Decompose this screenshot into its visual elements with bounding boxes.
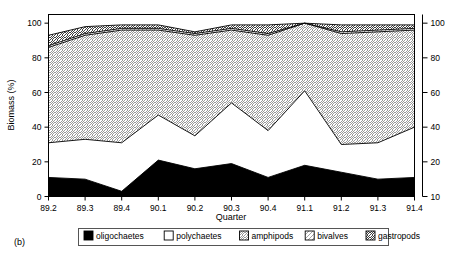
x-tick-label: 90.4 <box>260 203 277 213</box>
legend-swatch-gastropods <box>366 231 375 240</box>
y-right-tick-label: 60 <box>431 88 441 98</box>
stacked-area-chart: 020406080100 1020406080100 89.289.389.49… <box>0 0 460 254</box>
plot-series-group <box>49 23 415 196</box>
y-axis-right-ticks: 1020406080100 <box>423 15 445 202</box>
y-left-tick-label: 20 <box>32 157 42 167</box>
y-left-tick-label: 80 <box>32 53 42 63</box>
y-right-tick-label: 40 <box>431 122 441 132</box>
legend-label-oligochaetes: oligochaetes <box>96 231 144 241</box>
y-axis-label: Biomass (%) <box>6 79 16 130</box>
x-tick-label: 91.2 <box>333 203 350 213</box>
legend-swatch-amphipods <box>240 231 249 240</box>
legend-items: oligochaetespolychaetesamphipodsbivalves… <box>84 231 420 241</box>
x-tick-label: 90.2 <box>187 203 204 213</box>
x-tick-label: 90.1 <box>150 203 167 213</box>
x-tick-label: 90.3 <box>223 203 240 213</box>
y-right-tick-label: 20 <box>431 157 441 167</box>
y-left-tick-label: 60 <box>32 88 42 98</box>
y-axis-left-ticks: 020406080100 <box>27 18 48 201</box>
x-tick-label: 89.4 <box>113 203 130 213</box>
y-right-tick-label: 100 <box>431 18 445 28</box>
legend-swatch-polychaetes <box>164 231 173 240</box>
x-tick-label: 91.1 <box>296 203 313 213</box>
x-tick-label: 89.3 <box>77 203 94 213</box>
x-tick-label: 91.4 <box>406 203 423 213</box>
y-left-tick-label: 40 <box>32 122 42 132</box>
legend-label-gastropods: gastropods <box>378 231 420 241</box>
legend-swatch-bivalves <box>305 231 314 240</box>
legend-label-polychaetes: polychaetes <box>176 231 221 241</box>
figure-panel-b: 020406080100 1020406080100 89.289.389.49… <box>0 0 460 254</box>
chart-canvas: 020406080100 1020406080100 89.289.389.49… <box>0 0 460 254</box>
legend-label-bivalves: bivalves <box>317 231 348 241</box>
y-left-tick-label: 0 <box>37 192 42 202</box>
legend-swatch-oligochaetes <box>84 231 93 240</box>
panel-label: (b) <box>14 237 25 247</box>
legend-label-amphipods: amphipods <box>252 231 294 241</box>
chart-legend: oligochaetespolychaetesamphipodsbivalves… <box>79 229 421 246</box>
y-right-tick-label: 80 <box>431 53 441 63</box>
x-tick-label: 91.3 <box>370 203 387 213</box>
y-left-tick-label: 100 <box>27 18 41 28</box>
x-axis-ticks: 89.289.389.490.190.290.390.491.191.291.3… <box>40 197 423 213</box>
x-axis-label: Quarter <box>216 212 247 222</box>
y-right-tick-label: 10 <box>431 192 441 202</box>
x-tick-label: 89.2 <box>40 203 57 213</box>
